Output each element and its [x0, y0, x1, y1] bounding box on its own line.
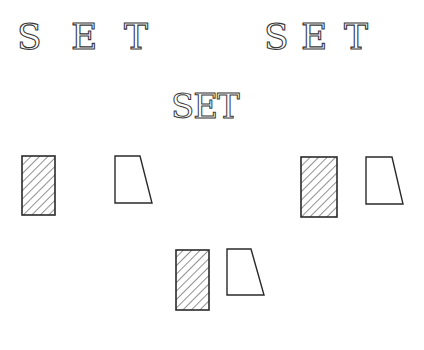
bottom-hatched-rectangle — [176, 250, 209, 310]
bottom-trapezoid — [227, 249, 264, 295]
right-trapezoid — [366, 157, 403, 204]
right-hatched-rectangle — [301, 157, 337, 217]
right-group — [301, 157, 403, 217]
left-hatched-rectangle — [22, 156, 55, 215]
left-trapezoid — [115, 156, 152, 203]
bottom-group — [176, 249, 264, 310]
left-group — [22, 156, 152, 215]
shapes-canvas — [0, 0, 424, 350]
